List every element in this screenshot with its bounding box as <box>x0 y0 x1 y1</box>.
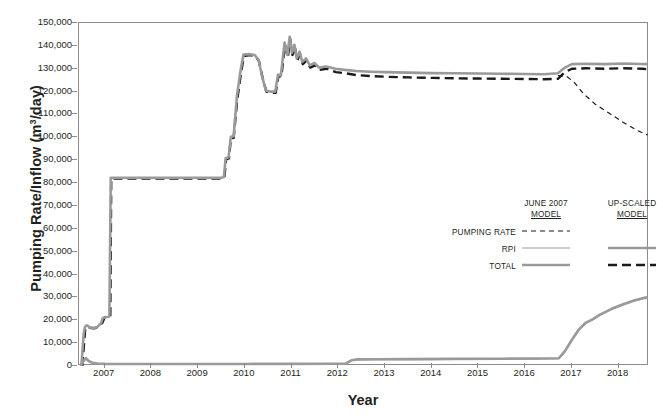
x-tick-mark <box>197 363 198 368</box>
x-tick-mark <box>150 363 151 368</box>
legend-column-header-line2: MODEL <box>504 209 588 220</box>
y-tick-label: 50,000 <box>8 246 72 256</box>
x-tick-mark <box>291 363 292 368</box>
x-tick-mark <box>477 363 478 368</box>
y-tick-label: 110,000 <box>8 108 72 118</box>
legend-column-header-line1: JUNE 2007 <box>504 198 588 209</box>
plot-area <box>78 22 648 365</box>
x-tick-mark <box>571 363 572 368</box>
y-tick-mark <box>72 342 77 343</box>
y-tick-mark <box>72 159 77 160</box>
legend-row-label: PUMPING RATE <box>452 228 516 238</box>
x-tick-label: 2018 <box>588 368 648 378</box>
y-tick-mark <box>72 68 77 69</box>
x-tick-mark <box>431 363 432 368</box>
y-tick-label: 130,000 <box>8 63 72 73</box>
y-tick-label: 0 <box>8 360 72 370</box>
y-tick-mark <box>72 45 77 46</box>
x-axis-title: Year <box>78 392 648 408</box>
legend-swatch <box>522 259 570 271</box>
y-tick-mark <box>72 365 77 366</box>
y-tick-label: 30,000 <box>8 291 72 301</box>
y-tick-label: 60,000 <box>8 223 72 233</box>
legend-swatch <box>522 242 570 254</box>
legend-row-label: TOTAL <box>489 262 516 272</box>
y-tick-mark <box>72 228 77 229</box>
legend-column-header: UP-SCALEDMODEL <box>590 198 663 220</box>
y-tick-mark <box>72 319 77 320</box>
series-line <box>81 298 647 365</box>
y-tick-mark <box>72 296 77 297</box>
y-tick-label: 90,000 <box>8 154 72 164</box>
legend-swatch <box>608 242 656 254</box>
legend-column-header-line1: UP-SCALED <box>590 198 663 209</box>
y-tick-mark <box>72 22 77 23</box>
legend-column-header: JUNE 2007MODEL <box>504 198 588 220</box>
y-tick-label: 70,000 <box>8 200 72 210</box>
y-tick-label: 40,000 <box>8 269 72 279</box>
legend-column-header-line2: MODEL <box>590 209 663 220</box>
chart-figure: Pumping Rate/Inflow (m3/day) 010,00020,0… <box>0 0 663 416</box>
y-tick-label: 10,000 <box>8 337 72 347</box>
y-tick-mark <box>72 205 77 206</box>
series-line <box>558 76 648 135</box>
y-tick-label: 20,000 <box>8 314 72 324</box>
chart-svg <box>79 23 649 366</box>
y-tick-mark <box>72 136 77 137</box>
x-tick-mark <box>384 363 385 368</box>
legend-swatch <box>608 259 656 271</box>
x-tick-mark <box>337 363 338 368</box>
y-tick-mark <box>72 251 77 252</box>
legend-swatch <box>522 225 570 237</box>
x-axis-ticks: 2007200820092010201120122013201420152016… <box>78 368 648 386</box>
x-tick-mark <box>244 363 245 368</box>
x-tick-mark <box>524 363 525 368</box>
x-tick-mark <box>104 363 105 368</box>
y-tick-label: 80,000 <box>8 177 72 187</box>
y-tick-label: 100,000 <box>8 131 72 141</box>
legend-row-label: RPI <box>502 245 516 255</box>
y-tick-label: 140,000 <box>8 40 72 50</box>
y-tick-mark <box>72 182 77 183</box>
y-tick-mark <box>72 113 77 114</box>
y-axis-ticks: 010,00020,00030,00040,00050,00060,00070,… <box>0 22 72 365</box>
x-tick-mark <box>618 363 619 368</box>
y-tick-mark <box>72 274 77 275</box>
y-tick-mark <box>72 91 77 92</box>
y-tick-label: 120,000 <box>8 86 72 96</box>
y-tick-label: 150,000 <box>8 17 72 27</box>
chart-legend: JUNE 2007MODELUP-SCALEDMODELPUMPING RATE… <box>418 198 658 284</box>
